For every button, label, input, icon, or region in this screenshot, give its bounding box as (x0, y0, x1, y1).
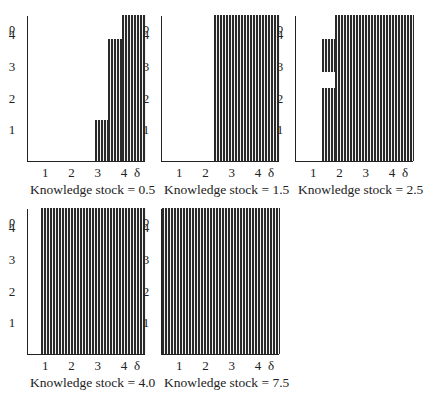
x-tick-label: 3 (225, 359, 239, 372)
plot-area (27, 209, 145, 355)
y-tick-label: 2 (139, 285, 153, 298)
x-tick-label: 4 (117, 359, 131, 372)
y-tick-label: 3 (5, 60, 19, 73)
chart-panel-4: ρ12341234δKnowledge stock = 4.0 (0, 193, 140, 383)
x-tick-label: 3 (91, 166, 105, 179)
x-tick-label: 2 (65, 166, 79, 179)
y-tick-label: 4 (139, 28, 153, 41)
shaded-region (335, 15, 414, 161)
panel-caption: Knowledge stock = 7.5 (164, 375, 289, 391)
y-tick-label: 2 (5, 92, 19, 105)
chart-panel-5: ρ12341234δKnowledge stock = 7.5 (134, 193, 274, 383)
shaded-region (41, 208, 146, 354)
y-tick-label: 4 (5, 28, 19, 41)
shaded-region (95, 120, 108, 161)
y-tick-label: 2 (139, 92, 153, 105)
y-tick-label: 1 (273, 123, 287, 136)
panel-caption: Knowledge stock = 2.5 (298, 182, 423, 198)
y-tick-label: 4 (139, 221, 153, 234)
x-tick-label: 4 (117, 166, 131, 179)
y-tick-label: 4 (273, 28, 287, 41)
shaded-region (162, 208, 280, 354)
y-tick-label: 4 (5, 221, 19, 234)
chart-panel-3: ρ12341234δKnowledge stock = 2.5 (268, 0, 408, 190)
x-axis-label: δ (264, 359, 278, 372)
x-tick-label: 1 (172, 166, 186, 179)
plot-area (27, 16, 145, 162)
x-tick-label: 1 (38, 166, 52, 179)
chart-panel-1: ρ12341234δKnowledge stock = 0.5 (0, 0, 140, 190)
x-tick-label: 3 (91, 359, 105, 372)
y-tick-label: 3 (5, 253, 19, 266)
y-tick-label: 3 (139, 253, 153, 266)
x-tick-label: 2 (333, 166, 347, 179)
y-tick-label: 1 (5, 123, 19, 136)
x-tick-label: 4 (251, 359, 265, 372)
plot-area (161, 209, 279, 355)
y-tick-label: 3 (273, 60, 287, 73)
x-tick-label: 1 (172, 359, 186, 372)
x-tick-label: 4 (385, 166, 399, 179)
x-tick-label: 2 (199, 359, 213, 372)
y-tick-label: 1 (139, 316, 153, 329)
x-tick-label: 3 (359, 166, 373, 179)
shaded-region (322, 88, 335, 161)
x-tick-label: 1 (38, 359, 52, 372)
y-tick-label: 1 (139, 123, 153, 136)
x-axis-label: δ (398, 166, 412, 179)
y-tick-label: 1 (5, 316, 19, 329)
y-tick-label: 2 (273, 92, 287, 105)
shaded-region (108, 39, 122, 161)
x-tick-label: 1 (306, 166, 320, 179)
x-tick-label: 2 (199, 166, 213, 179)
chart-panel-2: ρ12341234δKnowledge stock = 1.5 (134, 0, 274, 190)
plot-area (295, 16, 413, 162)
x-tick-label: 2 (65, 359, 79, 372)
y-tick-label: 3 (139, 60, 153, 73)
plot-area (161, 16, 279, 162)
x-tick-label: 4 (251, 166, 265, 179)
x-tick-label: 3 (225, 166, 239, 179)
y-tick-label: 2 (5, 285, 19, 298)
shaded-region (322, 39, 335, 72)
